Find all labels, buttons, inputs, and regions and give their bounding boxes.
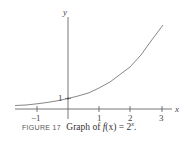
y-tick-label-1: 1 [58, 93, 63, 103]
figure-number: FIGURE 17 [22, 124, 61, 131]
x-tick-label-3: 3 [159, 113, 164, 123]
y-axis-label: y [62, 7, 67, 17]
x-axis-label: x [174, 104, 179, 114]
caption-suffix: . [134, 122, 136, 132]
caption-prefix: Graph of [66, 122, 100, 132]
exponential-curve [15, 25, 163, 106]
y-intercept-point [67, 98, 69, 100]
caption-equals: = 2 [119, 122, 131, 132]
figure-caption: FIGURE 17 Graph of f(x) = 2x. [22, 121, 136, 132]
chart: y x −1 1 2 3 1 [0, 0, 193, 141]
caption-arg: (x) [105, 122, 116, 132]
